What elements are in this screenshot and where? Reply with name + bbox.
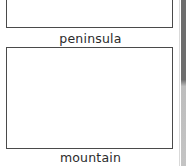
- page-edge-shadow: [181, 0, 186, 166]
- page-edge-line: [179, 0, 180, 166]
- card-label-mountain: mountain: [6, 150, 175, 165]
- drawing-box-mountain: [6, 47, 173, 149]
- drawing-box-peninsula: [6, 0, 173, 28]
- card-label-peninsula: peninsula: [6, 31, 175, 46]
